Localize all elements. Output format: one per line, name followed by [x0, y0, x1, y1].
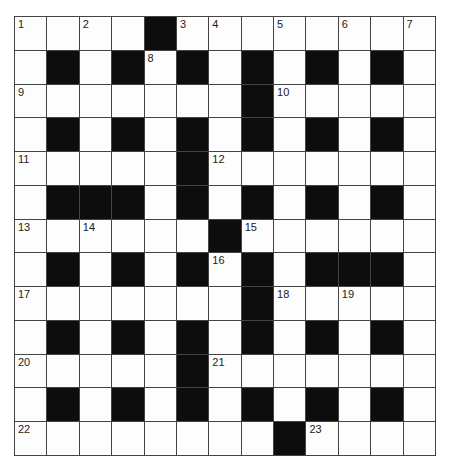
crossword-cell[interactable] — [404, 422, 435, 455]
crossword-cell[interactable] — [404, 118, 435, 151]
crossword-cell[interactable] — [242, 355, 273, 388]
crossword-cell[interactable] — [339, 152, 370, 185]
crossword-cell[interactable] — [404, 220, 435, 253]
crossword-cell[interactable] — [80, 355, 111, 388]
crossword-cell[interactable] — [15, 253, 46, 286]
crossword-cell[interactable] — [145, 355, 176, 388]
crossword-cell[interactable] — [274, 355, 305, 388]
crossword-cell[interactable]: 8 — [145, 51, 176, 84]
crossword-cell[interactable] — [404, 355, 435, 388]
crossword-cell[interactable] — [339, 220, 370, 253]
crossword-cell[interactable] — [112, 287, 143, 320]
crossword-cell[interactable] — [306, 220, 337, 253]
crossword-cell[interactable] — [209, 388, 240, 421]
crossword-cell[interactable]: 4 — [209, 17, 240, 50]
crossword-cell[interactable] — [274, 321, 305, 354]
crossword-cell[interactable] — [209, 85, 240, 118]
crossword-cell[interactable] — [15, 118, 46, 151]
crossword-cell[interactable] — [371, 85, 402, 118]
crossword-cell[interactable] — [306, 152, 337, 185]
crossword-cell[interactable] — [112, 152, 143, 185]
crossword-cell[interactable] — [306, 17, 337, 50]
crossword-cell[interactable] — [80, 51, 111, 84]
crossword-cell[interactable] — [15, 186, 46, 219]
crossword-cell[interactable]: 19 — [339, 287, 370, 320]
crossword-cell[interactable]: 22 — [15, 422, 46, 455]
crossword-cell[interactable] — [112, 17, 143, 50]
crossword-cell[interactable]: 21 — [209, 355, 240, 388]
crossword-cell[interactable] — [47, 85, 78, 118]
crossword-cell[interactable] — [339, 321, 370, 354]
crossword-cell[interactable] — [145, 422, 176, 455]
crossword-cell[interactable] — [371, 17, 402, 50]
crossword-cell[interactable] — [209, 51, 240, 84]
crossword-cell[interactable] — [371, 355, 402, 388]
crossword-cell[interactable] — [274, 220, 305, 253]
crossword-cell[interactable]: 23 — [306, 422, 337, 455]
crossword-cell[interactable] — [112, 85, 143, 118]
crossword-cell[interactable] — [274, 388, 305, 421]
crossword-cell[interactable] — [47, 355, 78, 388]
crossword-cell[interactable]: 18 — [274, 287, 305, 320]
crossword-cell[interactable] — [112, 220, 143, 253]
crossword-cell[interactable] — [145, 85, 176, 118]
crossword-cell[interactable] — [80, 118, 111, 151]
crossword-cell[interactable]: 10 — [274, 85, 305, 118]
crossword-cell[interactable] — [306, 287, 337, 320]
crossword-cell[interactable] — [274, 152, 305, 185]
crossword-cell[interactable] — [404, 287, 435, 320]
crossword-cell[interactable] — [339, 118, 370, 151]
crossword-cell[interactable] — [80, 388, 111, 421]
crossword-cell[interactable]: 15 — [242, 220, 273, 253]
crossword-cell[interactable] — [47, 152, 78, 185]
crossword-cell[interactable] — [371, 152, 402, 185]
crossword-cell[interactable] — [80, 321, 111, 354]
crossword-cell[interactable] — [80, 287, 111, 320]
crossword-cell[interactable] — [47, 17, 78, 50]
crossword-cell[interactable] — [177, 85, 208, 118]
crossword-cell[interactable] — [112, 355, 143, 388]
crossword-cell[interactable] — [404, 152, 435, 185]
crossword-cell[interactable] — [80, 152, 111, 185]
crossword-cell[interactable] — [80, 253, 111, 286]
crossword-cell[interactable] — [145, 287, 176, 320]
crossword-cell[interactable] — [274, 51, 305, 84]
crossword-cell[interactable] — [209, 321, 240, 354]
crossword-cell[interactable]: 17 — [15, 287, 46, 320]
crossword-cell[interactable] — [371, 220, 402, 253]
crossword-cell[interactable] — [112, 422, 143, 455]
crossword-cell[interactable] — [145, 186, 176, 219]
crossword-cell[interactable] — [242, 17, 273, 50]
crossword-cell[interactable]: 6 — [339, 17, 370, 50]
crossword-cell[interactable] — [306, 355, 337, 388]
crossword-cell[interactable] — [371, 287, 402, 320]
crossword-cell[interactable]: 20 — [15, 355, 46, 388]
crossword-cell[interactable]: 14 — [80, 220, 111, 253]
crossword-cell[interactable] — [47, 287, 78, 320]
crossword-cell[interactable] — [339, 388, 370, 421]
crossword-cell[interactable]: 12 — [209, 152, 240, 185]
crossword-cell[interactable] — [274, 253, 305, 286]
crossword-cell[interactable] — [15, 321, 46, 354]
crossword-cell[interactable]: 2 — [80, 17, 111, 50]
crossword-cell[interactable]: 1 — [15, 17, 46, 50]
crossword-cell[interactable] — [339, 186, 370, 219]
crossword-cell[interactable] — [47, 422, 78, 455]
crossword-cell[interactable] — [339, 422, 370, 455]
crossword-cell[interactable] — [274, 186, 305, 219]
crossword-cell[interactable]: 7 — [404, 17, 435, 50]
crossword-cell[interactable] — [145, 220, 176, 253]
crossword-cell[interactable] — [242, 422, 273, 455]
crossword-cell[interactable] — [177, 220, 208, 253]
crossword-cell[interactable] — [209, 287, 240, 320]
crossword-cell[interactable] — [209, 118, 240, 151]
crossword-cell[interactable] — [404, 51, 435, 84]
crossword-cell[interactable] — [145, 253, 176, 286]
crossword-cell[interactable]: 5 — [274, 17, 305, 50]
crossword-cell[interactable] — [371, 422, 402, 455]
crossword-cell[interactable] — [209, 422, 240, 455]
crossword-cell[interactable] — [242, 152, 273, 185]
crossword-cell[interactable] — [177, 287, 208, 320]
crossword-cell[interactable] — [145, 152, 176, 185]
crossword-cell[interactable] — [404, 388, 435, 421]
